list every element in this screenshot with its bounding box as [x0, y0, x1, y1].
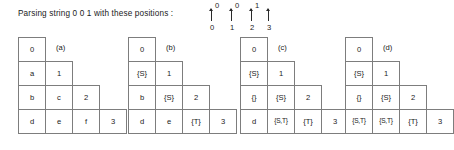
- up-arrow-icon: [211, 9, 212, 21]
- table-cell[interactable]: {}: [345, 85, 373, 110]
- parse-table: (d)0{S}1{}{S}2{S,T}{S,T}{T}3: [345, 38, 454, 134]
- position-index: 3: [265, 24, 273, 32]
- table-cell[interactable]: d: [240, 109, 268, 134]
- table-row: 0: [240, 37, 349, 62]
- table-row: 0: [18, 37, 127, 62]
- table-cell[interactable]: b: [128, 85, 156, 110]
- table-cell[interactable]: {T}: [399, 109, 427, 134]
- up-arrow-icon: [231, 9, 232, 21]
- table-row: {S}1: [240, 61, 349, 86]
- table-cell[interactable]: 1: [372, 61, 400, 86]
- table-cell[interactable]: 1: [267, 61, 295, 86]
- up-arrow-icon: [268, 9, 269, 21]
- table-cell[interactable]: f: [72, 109, 100, 134]
- table-row: b{S}2: [128, 85, 237, 110]
- table-row: de{T}3: [128, 109, 237, 134]
- table-cell[interactable]: e: [155, 109, 183, 134]
- position-index: 2: [248, 24, 256, 32]
- table-label: (a): [56, 43, 65, 52]
- table-cell[interactable]: 2: [182, 85, 210, 110]
- position-index: 0: [208, 24, 216, 32]
- table-cell[interactable]: {S,T}: [372, 109, 400, 134]
- table-cell[interactable]: 0: [18, 37, 46, 62]
- table-cell[interactable]: {S}: [155, 85, 183, 110]
- table-cell[interactable]: 1: [155, 61, 183, 86]
- header-row: Parsing string 0 0 1 with these position…: [0, 0, 454, 36]
- table-row: {}{S}2: [240, 85, 349, 110]
- table-cell[interactable]: c: [45, 85, 73, 110]
- position-ruler: 0001123: [208, 2, 288, 36]
- table-cell[interactable]: {S,T}: [267, 109, 295, 134]
- table-cell[interactable]: 0: [345, 37, 373, 62]
- table-cell[interactable]: d: [18, 109, 46, 134]
- parse-tables-container: (a)0a1bc2def3(b)0{S}1b{S}2de{T}3(c)0{S}1…: [0, 38, 454, 148]
- position-index: 1: [228, 24, 236, 32]
- table-cell[interactable]: a: [18, 61, 46, 86]
- position-tick: 12: [248, 2, 266, 36]
- parse-table: (a)0a1bc2def3: [18, 38, 127, 134]
- table-row: 0: [128, 37, 237, 62]
- table-cell[interactable]: {S}: [267, 85, 295, 110]
- table-row: bc2: [18, 85, 127, 110]
- table-cell[interactable]: 3: [209, 109, 237, 134]
- table-row: 0: [345, 37, 454, 62]
- table-cell[interactable]: 3: [426, 109, 454, 134]
- table-label: (b): [166, 43, 175, 52]
- table-cell[interactable]: {S}: [372, 85, 400, 110]
- input-symbol: 1: [255, 2, 259, 10]
- table-cell[interactable]: {}: [240, 85, 268, 110]
- parse-table: (c)0{S}1{}{S}2d{S,T}{T}3: [240, 38, 349, 134]
- table-cell[interactable]: 0: [128, 37, 156, 62]
- table-row: {S}1: [345, 61, 454, 86]
- table-cell[interactable]: {T}: [294, 109, 322, 134]
- table-row: {}{S}2: [345, 85, 454, 110]
- parse-table: (b)0{S}1b{S}2de{T}3: [128, 38, 237, 134]
- table-cell[interactable]: {T}: [182, 109, 210, 134]
- input-symbol: 0: [235, 2, 239, 10]
- table-row: {S}1: [128, 61, 237, 86]
- input-symbol: 0: [215, 2, 219, 10]
- table-cell[interactable]: 2: [72, 85, 100, 110]
- table-cell[interactable]: 2: [399, 85, 427, 110]
- table-cell[interactable]: d: [128, 109, 156, 134]
- table-label: (c): [278, 43, 287, 52]
- table-cell[interactable]: 1: [45, 61, 73, 86]
- table-cell[interactable]: e: [45, 109, 73, 134]
- table-cell[interactable]: {S}: [240, 61, 268, 86]
- table-cell[interactable]: 3: [99, 109, 127, 134]
- table-row: a1: [18, 61, 127, 86]
- table-row: def3: [18, 109, 127, 134]
- table-cell[interactable]: 0: [240, 37, 268, 62]
- position-tick: 00: [208, 2, 226, 36]
- page-title: Parsing string 0 0 1 with these position…: [18, 9, 173, 18]
- position-tick: 3: [265, 2, 283, 36]
- table-row: {S,T}{S,T}{T}3: [345, 109, 454, 134]
- up-arrow-icon: [251, 9, 252, 21]
- table-label: (d): [383, 43, 392, 52]
- table-cell[interactable]: 2: [294, 85, 322, 110]
- table-cell[interactable]: {S,T}: [345, 109, 373, 134]
- position-tick: 01: [228, 2, 246, 36]
- table-cell[interactable]: b: [18, 85, 46, 110]
- table-cell[interactable]: {S}: [128, 61, 156, 86]
- table-cell[interactable]: {S}: [345, 61, 373, 86]
- table-row: d{S,T}{T}3: [240, 109, 349, 134]
